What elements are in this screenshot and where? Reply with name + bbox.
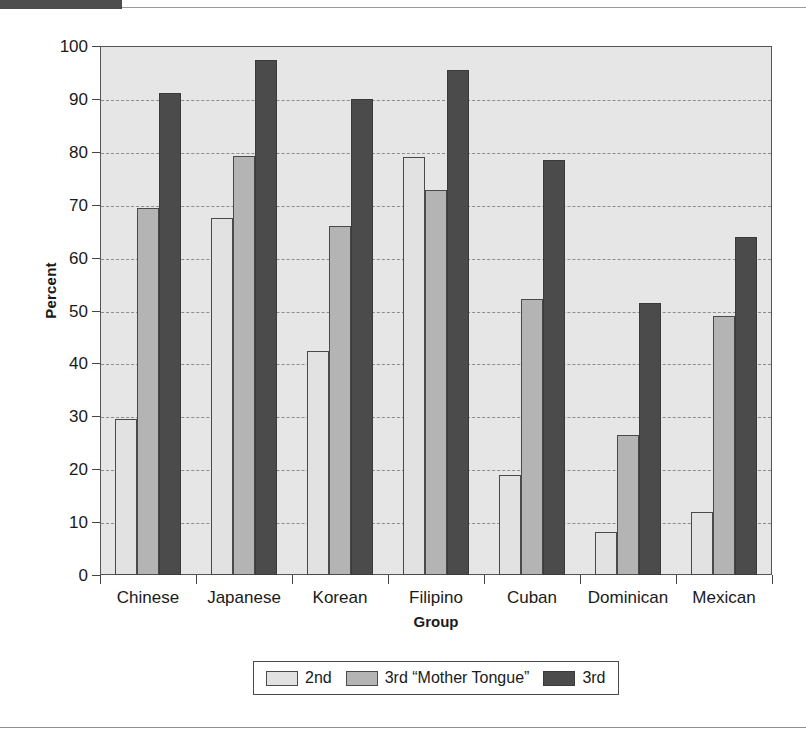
y-tick-mark (92, 363, 100, 364)
x-tick-label: Filipino (388, 588, 484, 608)
y-tick-mark (92, 311, 100, 312)
bar[interactable] (691, 512, 713, 575)
bar[interactable] (159, 93, 181, 575)
chart-legend: 2nd3rd “Mother Tongue”3rd (253, 661, 619, 695)
y-tick-label: 30 (18, 408, 88, 425)
bar-group (115, 46, 181, 575)
x-tick-label: Cuban (484, 588, 580, 608)
bar[interactable] (255, 60, 277, 575)
bar-group (499, 46, 565, 575)
bar[interactable] (233, 156, 255, 575)
bar[interactable] (639, 303, 661, 575)
bar[interactable] (595, 532, 617, 575)
legend-label: 3rd “Mother Tongue” (385, 669, 530, 687)
bar[interactable] (403, 157, 425, 575)
x-tick-mark (100, 575, 101, 584)
y-tick-label: 0 (18, 567, 88, 584)
legend-label: 3rd (582, 669, 605, 687)
y-tick-mark (92, 152, 100, 153)
y-tick-label: 80 (18, 144, 88, 161)
y-tick-mark (92, 575, 100, 576)
bar[interactable] (499, 475, 521, 576)
legend-swatch-icon (346, 671, 378, 686)
y-tick-mark (92, 416, 100, 417)
bar-group (691, 46, 757, 575)
bar-group (595, 46, 661, 575)
x-tick-mark (196, 575, 197, 584)
y-tick-mark (92, 99, 100, 100)
y-tick-label: 90 (18, 91, 88, 108)
bar-group (211, 46, 277, 575)
bar-group (403, 46, 469, 575)
bar[interactable] (211, 218, 233, 575)
bar-chart-figure: Percent 0102030405060708090100 ChineseJa… (0, 0, 806, 741)
legend-item[interactable]: 3rd “Mother Tongue” (346, 669, 530, 687)
y-tick-mark (92, 522, 100, 523)
bar[interactable] (137, 208, 159, 575)
bar[interactable] (351, 99, 373, 575)
x-tick-mark (676, 575, 677, 584)
y-tick-label: 20 (18, 461, 88, 478)
bar[interactable] (617, 435, 639, 575)
x-tick-label: Japanese (196, 588, 292, 608)
legend-item[interactable]: 3rd (543, 669, 605, 687)
bar[interactable] (713, 316, 735, 575)
legend-label: 2nd (305, 669, 332, 687)
bar[interactable] (425, 190, 447, 575)
page-root: Percent 0102030405060708090100 ChineseJa… (0, 0, 806, 741)
x-tick-label: Korean (292, 588, 388, 608)
y-tick-label: 10 (18, 514, 88, 531)
x-tick-label: Dominican (580, 588, 676, 608)
x-tick-label: Mexican (676, 588, 772, 608)
bar[interactable] (735, 237, 757, 575)
bar-group (307, 46, 373, 575)
x-tick-mark (388, 575, 389, 584)
legend-item[interactable]: 2nd (266, 669, 332, 687)
x-tick-label: Chinese (100, 588, 196, 608)
x-tick-mark (580, 575, 581, 584)
y-tick-label: 50 (18, 303, 88, 320)
y-tick-mark (92, 46, 100, 47)
legend-swatch-icon (266, 671, 298, 686)
y-tick-mark (92, 258, 100, 259)
bar[interactable] (447, 70, 469, 575)
legend-swatch-icon (543, 671, 575, 686)
bars-layer (100, 46, 772, 575)
bar[interactable] (329, 226, 351, 575)
y-tick-label: 60 (18, 250, 88, 267)
bar[interactable] (115, 419, 137, 575)
bar[interactable] (543, 160, 565, 575)
y-axis-title: Percent (42, 231, 59, 351)
y-tick-mark (92, 469, 100, 470)
x-tick-mark (772, 575, 773, 584)
y-tick-label: 40 (18, 355, 88, 372)
y-tick-mark (92, 205, 100, 206)
x-axis-title: Group (100, 613, 772, 630)
y-tick-label: 100 (18, 38, 88, 55)
bar[interactable] (521, 299, 543, 575)
bar[interactable] (307, 351, 329, 575)
x-tick-mark (292, 575, 293, 584)
y-tick-label: 70 (18, 197, 88, 214)
x-tick-mark (484, 575, 485, 584)
